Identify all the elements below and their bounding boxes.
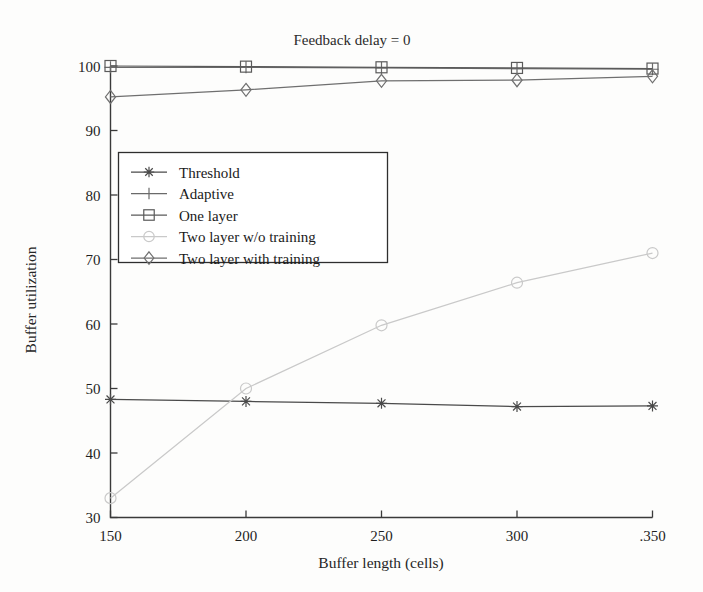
data-point-marker-star: [647, 400, 658, 411]
x-tick-label: 200: [235, 528, 258, 544]
y-tick-label: 100: [78, 59, 101, 75]
data-point-marker-plus: [376, 62, 388, 74]
legend-box: [119, 153, 388, 263]
x-tick-label: 250: [370, 528, 393, 544]
series-threshold: [105, 394, 658, 412]
series-line: [111, 253, 653, 498]
data-point-marker-circle: [647, 248, 658, 259]
data-point-marker-star: [512, 401, 523, 412]
x-tick-label: 300: [506, 528, 529, 544]
x-axis-title: Buffer length (cells): [318, 554, 443, 572]
legend-label: Adaptive: [179, 186, 234, 202]
chart-title: Feedback delay = 0: [293, 32, 410, 48]
y-tick-label: 40: [86, 446, 101, 462]
y-tick-label: 30: [86, 510, 101, 526]
y-tick-label: 90: [86, 123, 101, 139]
y-tick-label: 50: [86, 381, 101, 397]
data-point-marker-plus: [240, 61, 252, 73]
data-point-marker-star: [105, 394, 116, 405]
x-tick-label: .350: [639, 528, 665, 544]
x-tick-label: 150: [99, 528, 122, 544]
y-tick-label: 70: [86, 252, 101, 268]
legend-label: Two layer with training: [179, 251, 320, 267]
y-axis-title: Buffer utilization: [22, 246, 39, 353]
data-series-layer: [105, 61, 659, 504]
legend-label: Threshold: [179, 165, 240, 181]
data-point-marker-star: [241, 396, 252, 407]
x-axis-ticks: 150200250300.350: [99, 511, 665, 544]
chart-legend: ThresholdAdaptiveOne layerTwo layer w/o …: [119, 153, 388, 267]
legend-label: One layer: [179, 208, 238, 224]
figure-container: Feedback delay = 0 30405060708090100 150…: [0, 0, 703, 592]
series-two-layer-with-training: [105, 70, 657, 104]
data-point-marker-star: [144, 167, 154, 177]
chart-canvas: Feedback delay = 0 30405060708090100 150…: [0, 0, 703, 592]
y-tick-label: 60: [86, 317, 101, 333]
series-two-layer-w-o-training: [105, 248, 658, 504]
y-tick-label: 80: [86, 188, 101, 204]
legend-label: Two layer w/o training: [179, 229, 316, 245]
data-point-marker-star: [376, 398, 387, 409]
y-axis-ticks: 30405060708090100: [78, 59, 118, 527]
axis-lines: [111, 66, 653, 518]
